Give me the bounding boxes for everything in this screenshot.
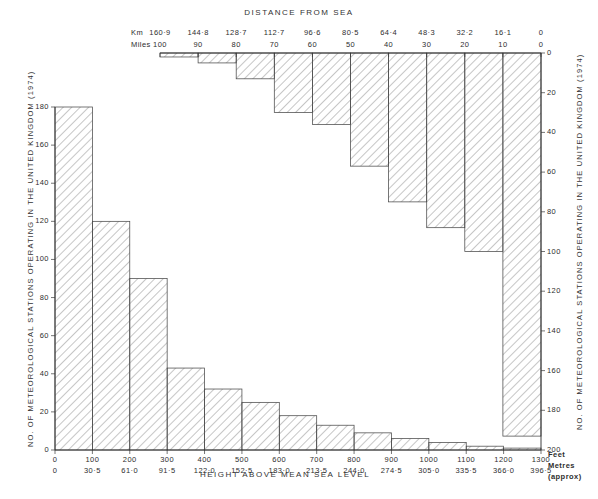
histogram-bar bbox=[466, 446, 503, 450]
distance-bar bbox=[274, 53, 312, 113]
axis-tick-label: 305·0 bbox=[418, 466, 439, 475]
axis-tick-label: 0 bbox=[53, 466, 58, 475]
axis-tick-label: 396·5 bbox=[530, 466, 551, 475]
axis-tick-label: 366·0 bbox=[493, 466, 514, 475]
axis-tick-label: 16·1 bbox=[494, 28, 511, 37]
plot-surface bbox=[0, 0, 598, 499]
axis-tick-label: 100 bbox=[153, 40, 167, 49]
axis-tick-label: 50 bbox=[346, 40, 355, 49]
axis-tick-label: 80 bbox=[232, 40, 241, 49]
axis-tick-label: 40 bbox=[547, 127, 556, 136]
axis-tick-label: 900 bbox=[385, 455, 399, 464]
axis-tick-label: 0 bbox=[44, 445, 49, 454]
axis-tick-label: 274·5 bbox=[381, 466, 402, 475]
axis-tick-label: 0 bbox=[53, 455, 58, 464]
axis-tick-label: 100 bbox=[547, 247, 561, 256]
histogram-bar bbox=[205, 389, 242, 450]
axis-tick-label: 60 bbox=[40, 331, 49, 340]
histogram-bar bbox=[167, 368, 204, 450]
axis-tick-label: 500 bbox=[235, 455, 249, 464]
axis-tick-label: 400 bbox=[198, 455, 212, 464]
distance-bar bbox=[312, 53, 350, 124]
histogram-bar bbox=[242, 402, 279, 450]
axis-tick-label: 70 bbox=[270, 40, 279, 49]
axis-tick-label: 80 bbox=[547, 207, 556, 216]
figure-canvas: DISTANCE FROM SEA Km Miles Feet Metres (… bbox=[0, 0, 598, 499]
histogram-bar bbox=[55, 107, 92, 450]
axis-tick-label: 91·5 bbox=[159, 466, 176, 475]
axis-tick-label: 48·3 bbox=[418, 28, 435, 37]
axis-tick-label: 30·5 bbox=[84, 466, 101, 475]
axis-tick-label: 160 bbox=[35, 140, 49, 149]
axis-tick-label: 200 bbox=[123, 455, 137, 464]
distance-bar bbox=[351, 53, 389, 166]
axis-tick-label: 1200 bbox=[494, 455, 513, 464]
axis-tick-label: 180 bbox=[547, 405, 561, 414]
histogram-bar bbox=[391, 439, 428, 450]
axis-tick-label: 700 bbox=[310, 455, 324, 464]
distance-bar bbox=[465, 53, 503, 252]
axis-tick-label: 120 bbox=[547, 286, 561, 295]
axis-tick-label: 140 bbox=[547, 326, 561, 335]
axis-tick-label: 64·4 bbox=[380, 28, 397, 37]
axis-tick-label: 20 bbox=[547, 88, 556, 97]
axis-tick-label: 10 bbox=[498, 40, 507, 49]
axis-tick-label: 80 bbox=[40, 293, 49, 302]
axis-tick-label: 144·8 bbox=[187, 28, 208, 37]
distance-bar bbox=[236, 53, 274, 79]
axis-tick-label: 152·5 bbox=[231, 466, 252, 475]
axis-tick-label: 100 bbox=[35, 254, 49, 263]
axis-tick-label: 0 bbox=[539, 28, 544, 37]
axis-tick-label: 61·0 bbox=[121, 466, 138, 475]
axis-tick-label: 20 bbox=[40, 407, 49, 416]
distance-from-sea-bars bbox=[160, 53, 541, 436]
axis-tick-label: 80·5 bbox=[342, 28, 359, 37]
axis-tick-label: 160·9 bbox=[149, 28, 170, 37]
axis-tick-label: 90 bbox=[193, 40, 202, 49]
axis-tick-label: 213·5 bbox=[306, 466, 327, 475]
histogram-bar bbox=[429, 442, 466, 450]
axis-tick-label: 200 bbox=[547, 445, 561, 454]
axis-tick-label: 60 bbox=[547, 167, 556, 176]
distance-bar bbox=[198, 53, 236, 63]
axis-tick-label: 300 bbox=[160, 455, 174, 464]
axis-tick-label: 60 bbox=[308, 40, 317, 49]
axis-tick-label: 32·2 bbox=[456, 28, 473, 37]
axis-tick-label: 1100 bbox=[457, 455, 475, 464]
histogram-bar bbox=[354, 433, 391, 450]
histogram-bar bbox=[317, 425, 354, 450]
axis-tick-label: 140 bbox=[35, 178, 49, 187]
axis-tick-label: 180 bbox=[35, 102, 49, 111]
histogram-bar bbox=[130, 279, 167, 451]
axis-tick-label: 40 bbox=[384, 40, 393, 49]
axis-tick-label: 1000 bbox=[420, 455, 439, 464]
axis-tick-label: 30 bbox=[422, 40, 431, 49]
axis-tick-label: 100 bbox=[85, 455, 99, 464]
histogram-bar bbox=[279, 416, 316, 450]
axis-tick-label: 122·0 bbox=[194, 466, 215, 475]
distance-bar bbox=[160, 53, 198, 57]
axis-tick-label: 600 bbox=[272, 455, 286, 464]
axis-tick-label: 335·5 bbox=[456, 466, 477, 475]
axis-tick-label: 20 bbox=[460, 40, 469, 49]
axis-tick-label: 96·6 bbox=[304, 28, 321, 37]
axis-tick-label: 800 bbox=[347, 455, 361, 464]
axis-tick-label: 244·0 bbox=[343, 466, 364, 475]
axis-tick-label: 0 bbox=[547, 48, 552, 57]
axis-tick-label: 160 bbox=[547, 366, 561, 375]
axis-tick-label: 0 bbox=[539, 40, 544, 49]
axis-tick-label: 183·0 bbox=[269, 466, 290, 475]
axis-tick-label: 120 bbox=[35, 216, 49, 225]
distance-bar bbox=[389, 53, 427, 202]
distance-bar bbox=[427, 53, 465, 228]
axis-tick-label: 112·7 bbox=[264, 28, 285, 37]
histogram-bar bbox=[92, 221, 129, 450]
axis-tick-label: 128·7 bbox=[225, 28, 246, 37]
axis-tick-label: 40 bbox=[40, 369, 49, 378]
distance-bar bbox=[503, 53, 541, 436]
axis-tick-label: 1300 bbox=[532, 455, 551, 464]
